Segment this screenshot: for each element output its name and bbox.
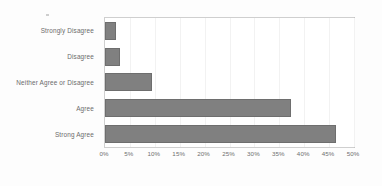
x-tick-label: 50% (347, 150, 360, 157)
category-label-strong-agree: Strong Agree (0, 122, 99, 148)
category-label-agree: Agree (0, 96, 99, 122)
bar-strongly-disagree (105, 22, 116, 40)
bar-row (105, 70, 354, 96)
x-tick-label: 5% (124, 150, 133, 157)
category-axis-labels: Strongly Disagree Disagree Neither Agree… (0, 17, 99, 148)
bar-row (105, 121, 354, 147)
bar-chart: Strongly Disagree Disagree Neither Agree… (0, 0, 382, 186)
category-label-neither-agree-or-disagree: Neither Agree or Disagree (0, 69, 99, 95)
gridline (354, 18, 355, 147)
bar-series (105, 18, 354, 147)
x-tick-label: 10% (147, 150, 160, 157)
bar-agree (105, 99, 291, 117)
bar-row (105, 18, 354, 44)
x-tick-label: 0% (99, 150, 108, 157)
bar-row (105, 95, 354, 121)
x-tick-label: 15% (172, 150, 185, 157)
x-tick-label: 45% (322, 150, 335, 157)
scan-artifact-dot (46, 14, 49, 16)
bar-row (105, 44, 354, 70)
x-tick-label: 35% (272, 150, 285, 157)
x-tick-label: 30% (247, 150, 260, 157)
x-tick-label: 25% (222, 150, 235, 157)
category-label-disagree: Disagree (0, 43, 99, 69)
bar-neither-agree-or-disagree (105, 73, 152, 91)
x-tick-label: 20% (197, 150, 210, 157)
bar-strong-agree (105, 125, 336, 143)
x-tick-label: 40% (297, 150, 310, 157)
x-axis-tick-labels: 0%5%10%15%20%25%30%35%40%45%50% (104, 150, 355, 164)
plot-area (104, 17, 355, 148)
category-label-strongly-disagree: Strongly Disagree (0, 17, 99, 43)
bar-disagree (105, 48, 120, 66)
